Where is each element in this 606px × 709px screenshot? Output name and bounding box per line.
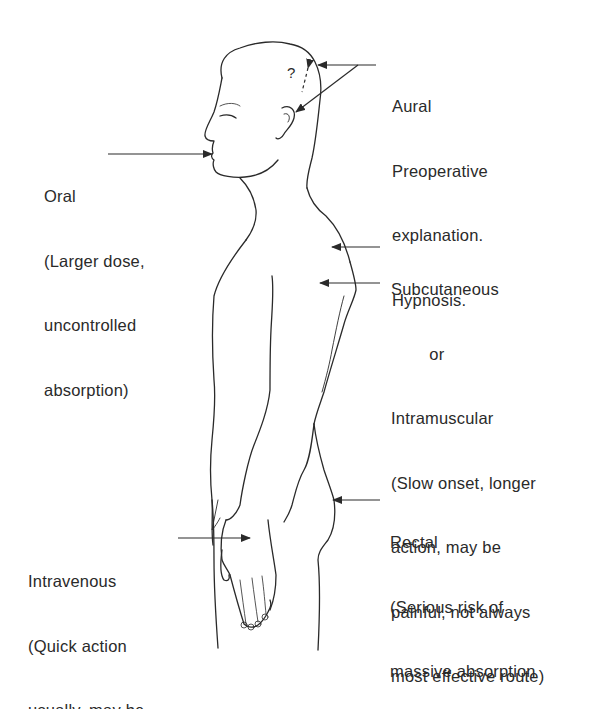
label-intravenous: Intravenous (Quick action usually, may b… — [28, 528, 144, 709]
label-iv-line-1: Intravenous — [28, 571, 144, 593]
back-to-hip — [284, 424, 314, 522]
neck-back — [307, 188, 350, 262]
drug-administration-routes-diagram: ? Aural Preoperative explanation. Hypnos… — [0, 0, 606, 709]
ear — [276, 107, 294, 139]
eye — [220, 115, 236, 118]
label-subcut-line-3: Intramuscular — [391, 408, 544, 430]
label-rectal-line-3: massive absorption — [390, 661, 536, 683]
buttock — [314, 424, 335, 650]
label-aural-line-2: Preoperative — [392, 161, 488, 183]
neck-front — [240, 178, 256, 240]
label-oral: Oral (Larger dose, uncontrolled absorpti… — [44, 143, 145, 444]
hand-back — [268, 520, 276, 610]
label-oral-line-1: Oral — [44, 186, 145, 208]
label-rectal-line-1: Rectal — [390, 532, 536, 554]
arm-front-line — [226, 276, 273, 520]
ear-inner — [284, 114, 289, 122]
label-oral-line-2: (Larger dose, — [44, 251, 145, 273]
label-aural-line-1: Aural — [392, 96, 488, 118]
finger-line-3 — [262, 576, 266, 614]
label-iv-line-3: usually, may be — [28, 700, 144, 709]
face-profile — [205, 78, 278, 177]
leg-front — [212, 500, 218, 648]
label-subcut-line-2: or — [391, 344, 544, 366]
label-rectal: Rectal (Serious risk of massive absorpti… — [390, 489, 536, 709]
back-upper-arm — [314, 262, 356, 424]
brow — [220, 103, 240, 106]
aural-dashed-arrow — [302, 68, 308, 92]
head-outline — [221, 42, 321, 188]
aural-arrow-ear — [296, 65, 358, 112]
finger-line-1 — [240, 580, 246, 624]
label-subcut-line-1: Subcutaneous — [391, 279, 544, 301]
label-rectal-line-2: (Serious risk of — [390, 597, 536, 619]
label-iv-line-2: (Quick action — [28, 636, 144, 658]
head-question-mark: ? — [287, 64, 295, 81]
hand-front — [221, 520, 230, 575]
label-oral-line-3: uncontrolled — [44, 315, 145, 337]
label-oral-line-4: absorption) — [44, 380, 145, 402]
finger-line-2 — [252, 578, 258, 622]
arm-inner-line — [322, 296, 344, 392]
